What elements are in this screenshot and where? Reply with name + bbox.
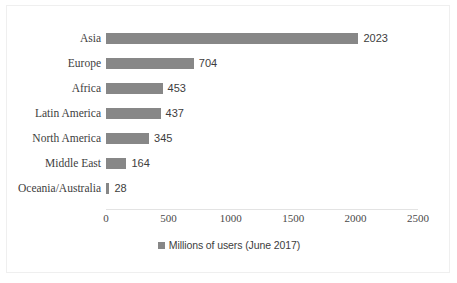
category-label-africa: Africa [7,76,101,101]
bar-asia [106,33,358,44]
legend-label: Millions of users (June 2017) [169,239,300,251]
bar-row: Oceania/Australia 28 [7,176,451,201]
x-axis-tick-2000: 2000 [333,212,379,224]
bar-row: North America 345 [7,126,451,151]
bar-value-latin-america: 437 [166,101,184,126]
bar-row: Europe 704 [7,51,451,76]
x-axis-tick-2500: 2500 [395,212,441,224]
x-axis-line [106,209,418,210]
plot-area: Asia 2023 Europe 704 Africa 453 Latin Am… [7,6,451,274]
bar-oceania-australia [106,183,109,194]
chart-legend: Millions of users (June 2017) [7,239,451,251]
bar-value-europe: 704 [199,51,217,76]
category-label-europe: Europe [7,51,101,76]
bar-north-america [106,133,149,144]
bar-value-middle-east: 164 [131,151,149,176]
bar-europe [106,58,194,69]
x-axis-tick-1000: 1000 [208,212,254,224]
bar-row: Middle East 164 [7,151,451,176]
bar-value-asia: 2023 [363,26,387,51]
category-label-north-america: North America [7,126,101,151]
category-label-oceania-australia: Oceania/Australia [7,176,101,201]
bar-value-oceania-australia: 28 [114,176,126,201]
bar-africa [106,83,163,94]
x-axis-tick-0: 0 [83,212,129,224]
bar-middle-east [106,158,126,169]
category-label-latin-america: Latin America [7,101,101,126]
bar-row: Africa 453 [7,76,451,101]
legend-marker-icon [158,242,165,249]
bar-row: Latin America 437 [7,101,451,126]
bar-value-north-america: 345 [154,126,172,151]
category-label-asia: Asia [7,26,101,51]
category-label-middle-east: Middle East [7,151,101,176]
x-axis-tick-1500: 1500 [270,212,316,224]
bar-value-africa: 453 [168,76,186,101]
chart-container: Asia 2023 Europe 704 Africa 453 Latin Am… [6,5,450,273]
x-axis-tick-500: 500 [145,212,191,224]
bar-row: Asia 2023 [7,26,451,51]
bar-latin-america [106,108,161,119]
